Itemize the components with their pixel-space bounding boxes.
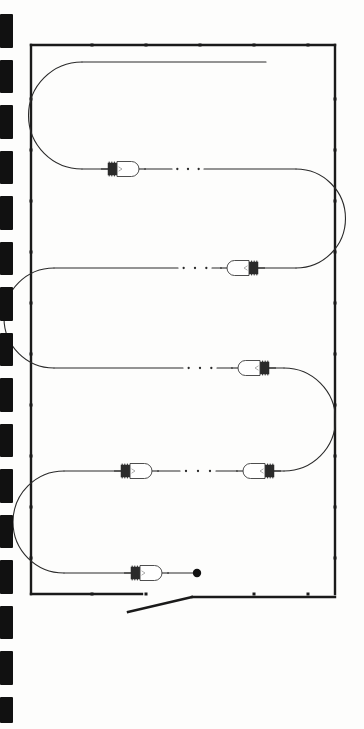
lamp-symbols [101, 162, 281, 581]
perforation-mark [0, 287, 13, 321]
tick-right [334, 557, 337, 560]
tick-bottom [91, 593, 94, 596]
tick-left [30, 404, 33, 407]
perforation-mark [0, 651, 13, 685]
wire-break-row1-dot [176, 168, 178, 170]
perforation-mark [0, 469, 13, 503]
tick-right [334, 98, 337, 101]
film-perforation-strip [0, 0, 26, 729]
tick-left [30, 455, 33, 458]
wire-break-row1-dot [187, 168, 189, 170]
perforation-mark [0, 697, 13, 723]
tick-right [334, 455, 337, 458]
wire-break-row3-dot [199, 367, 201, 369]
border-bottom-diagonal-jog [128, 597, 192, 612]
lamp-glass-envelope [117, 162, 139, 177]
serpentine-conductor [4, 62, 345, 573]
tick-left [30, 302, 33, 305]
tick-right [334, 506, 337, 509]
wire-break-row2-dot [194, 267, 196, 269]
tick-left [30, 200, 33, 203]
figure-drawing-canvas [0, 0, 364, 729]
perforation-mark [0, 606, 13, 639]
tick-top [253, 44, 256, 47]
tick-left [30, 251, 33, 254]
bend-right-1 [296, 169, 345, 268]
end-terminal-dot [193, 569, 201, 577]
perforation-mark [0, 14, 13, 48]
tick-bottom [307, 593, 310, 596]
lamp-glass-envelope [130, 464, 152, 479]
perforation-mark [0, 105, 13, 139]
bend-right-2 [284, 368, 335, 471]
wire-break-row2-dot [205, 267, 207, 269]
end-terminal-dot [193, 569, 201, 577]
tick-bottom [253, 593, 256, 596]
figure-border [31, 45, 335, 612]
perforation-mark [0, 60, 13, 93]
wire-break-row4-dot [185, 470, 187, 472]
tick-right [334, 149, 337, 152]
wire-break-row4-dot [209, 470, 211, 472]
wire-break-row3-dot [188, 367, 190, 369]
perforation-mark [0, 378, 13, 412]
tick-right [334, 302, 337, 305]
tick-left [30, 557, 33, 560]
bend-left-1 [29, 62, 82, 169]
wire-break-row4-dot [197, 470, 199, 472]
lamp-glass-envelope [238, 361, 260, 376]
border-tick-marks [30, 44, 337, 596]
lamp-symbol-lamp-6 [124, 566, 169, 581]
wire-break-row2-dot [183, 267, 185, 269]
lamp-symbol-lamp-2 [220, 261, 265, 276]
tick-top [91, 44, 94, 47]
lamp-glass-envelope [140, 566, 162, 581]
tick-left [30, 149, 33, 152]
tick-top [145, 44, 148, 47]
tick-left [30, 353, 33, 356]
lamp-glass-envelope [227, 261, 249, 276]
lamp-symbol-lamp-4 [114, 464, 159, 479]
tick-top [307, 44, 310, 47]
perforation-mark [0, 151, 13, 184]
lamp-glass-envelope [243, 464, 265, 479]
tick-bottom [145, 593, 148, 596]
tick-top [199, 44, 202, 47]
perforation-mark [0, 560, 13, 594]
perforation-mark [0, 424, 13, 457]
wire-break-row1-dot [198, 168, 200, 170]
lamp-symbol-lamp-3 [231, 361, 276, 376]
lamp-symbol-lamp-5 [236, 464, 281, 479]
tick-right [334, 353, 337, 356]
wire-break-row3-dot [210, 367, 212, 369]
figure-root: Serpentine lamp string figure [0, 0, 364, 729]
tick-left [30, 506, 33, 509]
perforation-mark [0, 242, 13, 275]
perforation-mark [0, 333, 13, 366]
perforation-mark [0, 196, 13, 230]
lamp-symbol-lamp-1 [101, 162, 146, 177]
wire-break-dots [176, 168, 212, 472]
tick-right [334, 200, 337, 203]
perforation-mark [0, 515, 13, 548]
